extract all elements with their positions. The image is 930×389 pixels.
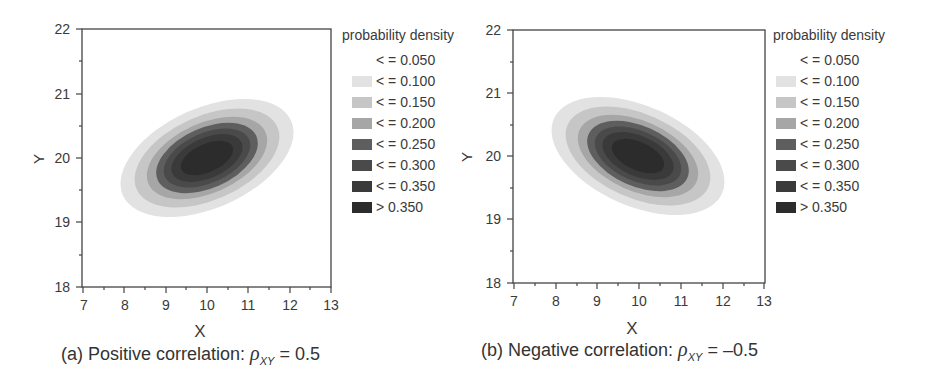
svg-text:19: 19 bbox=[485, 211, 501, 227]
legend-item: < = 0.150 bbox=[776, 94, 859, 110]
legend-swatch bbox=[352, 160, 372, 171]
legend-item: < = 0.050 bbox=[776, 52, 859, 68]
svg-text:9: 9 bbox=[593, 293, 601, 309]
y-ticks-b bbox=[507, 30, 513, 283]
chart-panel-b: 7 8 9 10 11 12 13 22 21 20 19 18 X Y pro… bbox=[432, 0, 930, 389]
legend-swatch bbox=[776, 97, 796, 108]
legend-swatch bbox=[352, 118, 372, 129]
svg-text:19: 19 bbox=[54, 214, 70, 230]
legend-swatch bbox=[776, 202, 796, 213]
legend-item: < = 0.200 bbox=[776, 115, 859, 131]
legend-swatch bbox=[352, 55, 372, 66]
legend-swatch bbox=[352, 139, 372, 150]
legend-swatch bbox=[776, 181, 796, 192]
svg-text:11: 11 bbox=[241, 297, 256, 313]
legend-swatch bbox=[776, 55, 796, 66]
svg-text:13: 13 bbox=[756, 293, 772, 309]
x-ticks-b bbox=[514, 283, 764, 289]
legend-swatch bbox=[352, 76, 372, 87]
y-axis-label-b: Y bbox=[458, 152, 475, 162]
legend-item: < = 0.100 bbox=[776, 73, 859, 89]
svg-text:11: 11 bbox=[674, 293, 689, 309]
legend-item: < = 0.350 bbox=[352, 178, 435, 194]
legend-item: < = 0.200 bbox=[352, 115, 435, 131]
legend-swatch bbox=[776, 139, 796, 150]
legend-item: < = 0.250 bbox=[352, 136, 435, 152]
legend-swatch bbox=[776, 160, 796, 171]
legend-item: < = 0.300 bbox=[776, 157, 859, 173]
x-ticks-a bbox=[83, 287, 331, 293]
svg-text:12: 12 bbox=[715, 293, 731, 309]
svg-text:8: 8 bbox=[552, 293, 560, 309]
svg-text:13: 13 bbox=[323, 297, 339, 313]
legend-item: < = 0.250 bbox=[776, 136, 859, 152]
y-ticks-a bbox=[76, 29, 82, 287]
x-axis-label-b: X bbox=[626, 319, 637, 338]
svg-text:20: 20 bbox=[485, 148, 501, 164]
svg-text:9: 9 bbox=[162, 297, 170, 313]
legend-swatch bbox=[352, 97, 372, 108]
caption-a: (a) Positive correlation: ρXY = 0.5 bbox=[61, 342, 320, 367]
legend-item: > 0.350 bbox=[776, 199, 847, 215]
x-axis-label-a: X bbox=[194, 322, 205, 341]
chart-panel-a: 7 8 9 10 11 12 13 22 21 20 19 18 X Y pro… bbox=[0, 0, 465, 389]
legend-swatch bbox=[352, 181, 372, 192]
legend-item: > 0.350 bbox=[352, 199, 423, 215]
legend-swatch bbox=[776, 76, 796, 87]
y-tick-labels-a: 22 21 20 19 18 bbox=[54, 21, 70, 295]
svg-text:18: 18 bbox=[485, 275, 501, 291]
y-tick-labels-b: 22 21 20 19 18 bbox=[485, 22, 501, 291]
caption-b: (b) Negative correlation: ρXY = –0.5 bbox=[481, 338, 758, 363]
legend-item: < = 0.100 bbox=[352, 73, 435, 89]
svg-text:22: 22 bbox=[54, 21, 70, 37]
svg-text:7: 7 bbox=[80, 297, 88, 313]
legend-item: < = 0.150 bbox=[352, 94, 435, 110]
svg-text:7: 7 bbox=[510, 293, 518, 309]
svg-text:20: 20 bbox=[54, 150, 70, 166]
x-tick-labels-b: 7 8 9 10 11 12 13 bbox=[510, 293, 772, 309]
svg-text:21: 21 bbox=[54, 86, 70, 102]
legend-swatch bbox=[776, 118, 796, 129]
svg-text:22: 22 bbox=[485, 22, 501, 38]
legend-swatch bbox=[352, 202, 372, 213]
legend-item: < = 0.300 bbox=[352, 157, 435, 173]
svg-text:8: 8 bbox=[121, 297, 129, 313]
legend-item: < = 0.050 bbox=[352, 52, 435, 68]
x-tick-labels-a: 7 8 9 10 11 12 13 bbox=[80, 297, 339, 313]
legend-item: < = 0.350 bbox=[776, 178, 859, 194]
contour-fill-a bbox=[103, 75, 312, 241]
svg-text:12: 12 bbox=[282, 297, 298, 313]
contour-fill-b bbox=[534, 73, 743, 239]
svg-text:10: 10 bbox=[631, 293, 647, 309]
svg-text:10: 10 bbox=[199, 297, 215, 313]
svg-text:18: 18 bbox=[54, 279, 70, 295]
legend-title-b: probability density bbox=[773, 27, 885, 43]
y-axis-label-a: Y bbox=[30, 154, 47, 164]
svg-text:21: 21 bbox=[485, 85, 501, 101]
